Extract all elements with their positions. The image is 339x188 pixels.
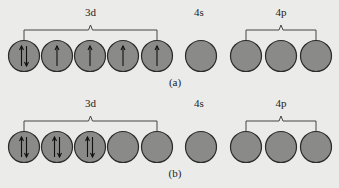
- orbital: [266, 132, 297, 163]
- orbital: [266, 41, 297, 72]
- orbital: [9, 41, 40, 72]
- bracket: [24, 25, 157, 41]
- orbital-circle: [186, 41, 217, 72]
- panel-caption: (b): [169, 167, 182, 180]
- orbital: [186, 41, 217, 72]
- orbital: [75, 41, 106, 72]
- orbital-circle: [108, 132, 139, 163]
- orbital-circle: [231, 132, 262, 163]
- orbital: [186, 132, 217, 163]
- orbital: [108, 132, 139, 163]
- subshell-4s: 4s: [186, 6, 217, 72]
- subshell-label: 3d: [85, 6, 97, 18]
- orbital: [231, 132, 262, 163]
- orbital-circle: [186, 132, 217, 163]
- orbital: [42, 132, 73, 163]
- orbital-circle: [9, 41, 40, 72]
- subshell-3d: 3d: [9, 97, 173, 163]
- orbital-circle: [301, 132, 332, 163]
- orbital-circle: [42, 132, 73, 163]
- bracket: [24, 116, 157, 132]
- orbital: [108, 41, 139, 72]
- panel-caption: (a): [169, 76, 182, 89]
- subshell-label: 4p: [276, 97, 288, 109]
- orbital-circle: [266, 132, 297, 163]
- orbital-circle: [142, 132, 173, 163]
- orbital: [142, 41, 173, 72]
- orbital: [9, 132, 40, 163]
- orbital-circle: [301, 41, 332, 72]
- subshell-label: 4s: [194, 97, 204, 109]
- orbital: [301, 132, 332, 163]
- subshell-4s: 4s: [186, 97, 217, 163]
- subshell-label: 3d: [85, 97, 97, 109]
- panel-a: 3d4s4p(a): [9, 6, 332, 89]
- bracket: [246, 116, 316, 132]
- orbital-circle: [231, 41, 262, 72]
- subshell-4p: 4p: [231, 6, 332, 72]
- subshell-4p: 4p: [231, 97, 332, 163]
- orbital: [142, 132, 173, 163]
- bracket: [246, 25, 316, 41]
- orbital-circle: [266, 41, 297, 72]
- orbital-circle: [9, 132, 40, 163]
- subshell-label: 4s: [194, 6, 204, 18]
- panel-b: 3d4s4p(b): [9, 97, 332, 180]
- orbital-circle: [75, 132, 106, 163]
- subshell-label: 4p: [276, 6, 288, 18]
- orbital: [301, 41, 332, 72]
- orbital: [231, 41, 262, 72]
- orbital-diagram: 3d4s4p(a)3d4s4p(b): [0, 0, 339, 188]
- orbital: [75, 132, 106, 163]
- subshell-3d: 3d: [9, 6, 173, 72]
- orbital: [42, 41, 73, 72]
